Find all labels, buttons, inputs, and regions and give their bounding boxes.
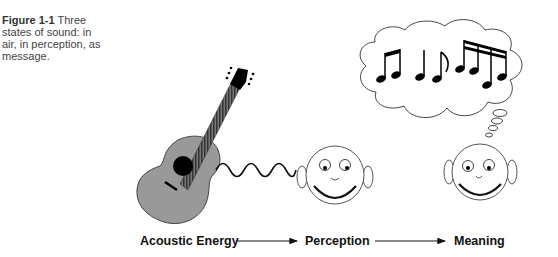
stage-meaning: Meaning <box>454 234 505 248</box>
sound-wave-icon <box>216 164 296 177</box>
flow-diagram: Acoustic Energy Perception Meaning <box>140 234 505 248</box>
sound-states-diagram: Acoustic Energy Perception Meaning <box>0 0 558 257</box>
smiling-face-icon <box>297 146 373 204</box>
guitar-icon <box>137 67 254 224</box>
stage-perception: Perception <box>305 234 370 248</box>
smiling-face-icon <box>444 144 517 200</box>
stage-acoustic-energy: Acoustic Energy <box>140 234 239 248</box>
